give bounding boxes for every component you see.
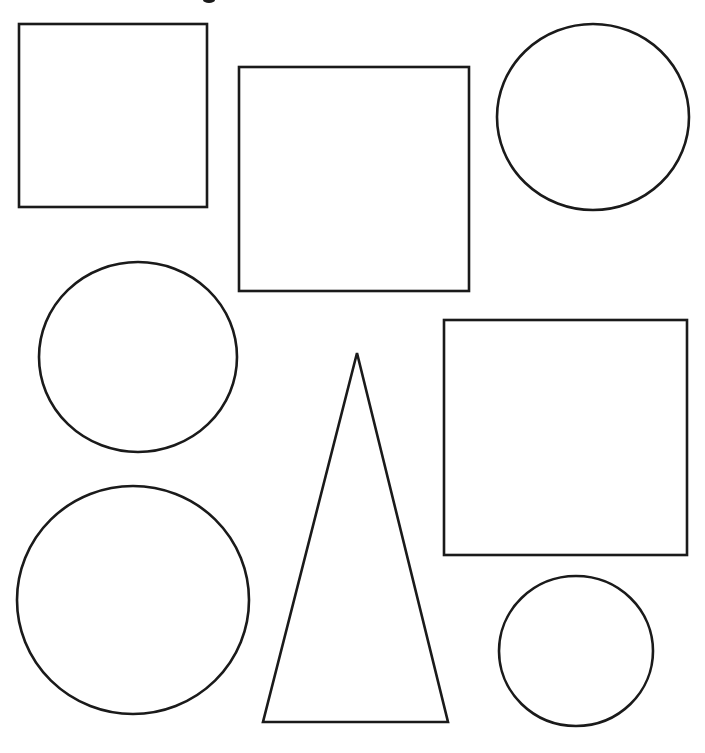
triangle-bottom-center (263, 353, 448, 722)
square-top-left (19, 24, 207, 207)
circle-bottom-right (499, 576, 653, 726)
circle-bottom-left (17, 486, 249, 714)
square-top-center (239, 67, 469, 291)
shapes-worksheet-canvas (0, 0, 705, 753)
circle-top-right (497, 24, 689, 210)
square-middle-right (444, 320, 687, 555)
circle-middle-left (39, 262, 237, 452)
cut-off-text-fragment (203, 0, 215, 3)
